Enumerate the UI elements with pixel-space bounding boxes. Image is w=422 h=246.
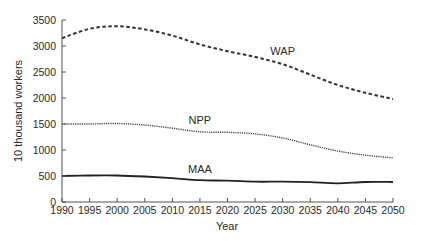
y-tick-label: 2000	[33, 92, 57, 104]
series-line-wap	[62, 26, 393, 99]
x-tick-label: 2000	[105, 204, 129, 216]
y-tick-label: 1500	[33, 118, 57, 130]
x-tick-label: 2030	[271, 204, 295, 216]
y-tick-label: 3000	[33, 40, 57, 52]
series-line-npp	[62, 123, 393, 157]
plot-lines	[62, 26, 393, 183]
series-label-maa: MAA	[188, 163, 213, 175]
y-tick-label: 3500	[33, 14, 57, 26]
x-tick-label: 2020	[216, 204, 240, 216]
series-label-wap: WAP	[270, 45, 295, 57]
y-axis-title: 10 thousand workers	[12, 59, 24, 162]
line-chart: 0500100015002000250030003500199019952000…	[0, 0, 422, 246]
series-line-maa	[62, 175, 393, 183]
x-tick-label: 2005	[133, 204, 157, 216]
x-tick-label: 2035	[299, 204, 323, 216]
y-tick-label: 1000	[33, 144, 57, 156]
x-tick-label: 1990	[50, 204, 74, 216]
x-tick-label: 2040	[326, 204, 350, 216]
axes: 0500100015002000250030003500199019952000…	[33, 14, 405, 216]
x-tick-label: 1995	[78, 204, 102, 216]
series-label-npp: NPP	[189, 114, 212, 126]
series-labels: WAPNPPMAA	[188, 45, 295, 175]
y-tick-label: 500	[38, 170, 56, 182]
x-tick-label: 2010	[161, 204, 185, 216]
x-tick-label: 2045	[354, 204, 378, 216]
x-tick-label: 2015	[188, 204, 212, 216]
y-tick-label: 2500	[33, 66, 57, 78]
x-tick-label: 2050	[381, 204, 405, 216]
x-tick-label: 2025	[243, 204, 267, 216]
x-axis-title: Year	[216, 220, 239, 232]
